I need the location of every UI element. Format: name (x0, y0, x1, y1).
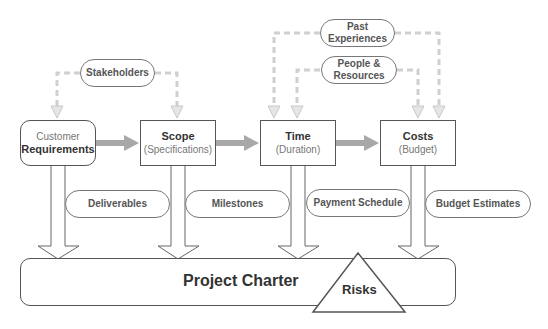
past-experiences-pill: Past Experiences (320, 19, 395, 47)
costs-subtitle: (Budget) (399, 143, 437, 156)
customer-requirements-node: Customer Requirements (20, 120, 96, 166)
past-experiences-line2: Experiences (328, 33, 387, 45)
scope-subtitle: (Specifications) (144, 143, 212, 156)
people-resources-line1: People & (338, 58, 381, 70)
budget-estimates-label: Budget Estimates (436, 198, 520, 210)
deliverables-pill: Deliverables (65, 190, 170, 218)
flow-arrows (96, 135, 379, 151)
customer-requirements-line2: Requirements (21, 143, 94, 156)
payment-schedule-label: Payment Schedule (314, 197, 403, 209)
time-node: Time (Duration) (260, 120, 336, 166)
project-charter-label: Project Charter (183, 272, 299, 290)
stakeholders-label: Stakeholders (86, 67, 149, 79)
stakeholders-arrowheads (51, 106, 183, 118)
scope-title: Scope (161, 130, 194, 143)
milestones-label: Milestones (212, 198, 264, 210)
budget-estimates-pill: Budget Estimates (425, 190, 531, 218)
costs-title: Costs (403, 130, 434, 143)
people-resources-line2: Resources (333, 70, 384, 82)
payment-schedule-pill: Payment Schedule (306, 189, 410, 217)
top-arrowheads (268, 106, 445, 118)
costs-node: Costs (Budget) (380, 120, 456, 166)
milestones-pill: Milestones (185, 190, 290, 218)
risks-label: Risks (342, 282, 377, 297)
people-resources-pill: People & Resources (321, 56, 397, 84)
customer-requirements-line1: Customer (36, 130, 79, 143)
stakeholders-pill: Stakeholders (80, 59, 155, 87)
time-title: Time (285, 130, 310, 143)
deliverables-label: Deliverables (88, 198, 147, 210)
past-experiences-line1: Past (347, 21, 368, 33)
scope-node: Scope (Specifications) (140, 120, 216, 166)
time-subtitle: (Duration) (276, 143, 320, 156)
